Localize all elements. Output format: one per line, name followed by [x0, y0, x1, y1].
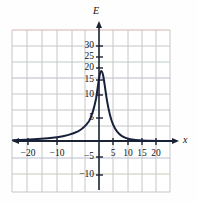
- y-tick-label-30: 30: [74, 41, 94, 51]
- x-tick-label-20: 20: [147, 149, 165, 159]
- x-axis-label: x: [183, 135, 187, 145]
- x-tick-label-neg20: −20: [14, 149, 42, 159]
- y-tick-label-20: 20: [74, 63, 94, 73]
- x-tick-label-5: 5: [106, 149, 120, 159]
- y-tick-label-25: 25: [74, 52, 94, 62]
- y-tick-label-neg10: −10: [68, 170, 94, 180]
- x-tick-label-neg10: −10: [43, 149, 71, 159]
- plot-canvas: [0, 0, 198, 203]
- y-tick-label-15: 15: [74, 75, 94, 85]
- y-tick-label-5: 5: [74, 113, 94, 123]
- y-axis-label: E: [93, 6, 99, 16]
- y-tick-label-neg5: −5: [72, 152, 94, 162]
- graph-figure: E x 30 25 20 15 10 5 −5 −10 −20 −10 5 10…: [0, 0, 198, 203]
- y-tick-label-10: 10: [74, 90, 94, 100]
